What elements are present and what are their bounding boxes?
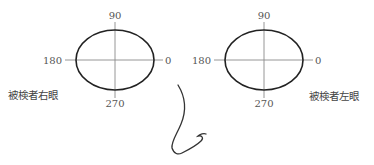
right-eye-label-270: 270 bbox=[105, 99, 124, 109]
left-eye-diagram bbox=[214, 22, 313, 98]
left-eye-caption: 被検者左眼 bbox=[309, 91, 359, 102]
left-eye-label-0: 0 bbox=[315, 56, 321, 66]
right-eye-caption: 被検者右眼 bbox=[8, 90, 58, 101]
left-eye-label-90: 90 bbox=[258, 11, 271, 21]
diagram-graphics bbox=[0, 0, 374, 165]
diagram: 90 180 0 270 被検者右眼 90 180 0 270 被検者左眼 bbox=[0, 0, 374, 165]
right-eye-diagram bbox=[65, 22, 163, 98]
right-eye-label-180: 180 bbox=[43, 56, 62, 66]
left-eye-label-270: 270 bbox=[254, 99, 273, 109]
left-eye-label-180: 180 bbox=[192, 56, 211, 66]
nose-outline bbox=[172, 85, 206, 154]
right-eye-label-0: 0 bbox=[165, 56, 171, 66]
right-eye-label-90: 90 bbox=[109, 11, 122, 21]
